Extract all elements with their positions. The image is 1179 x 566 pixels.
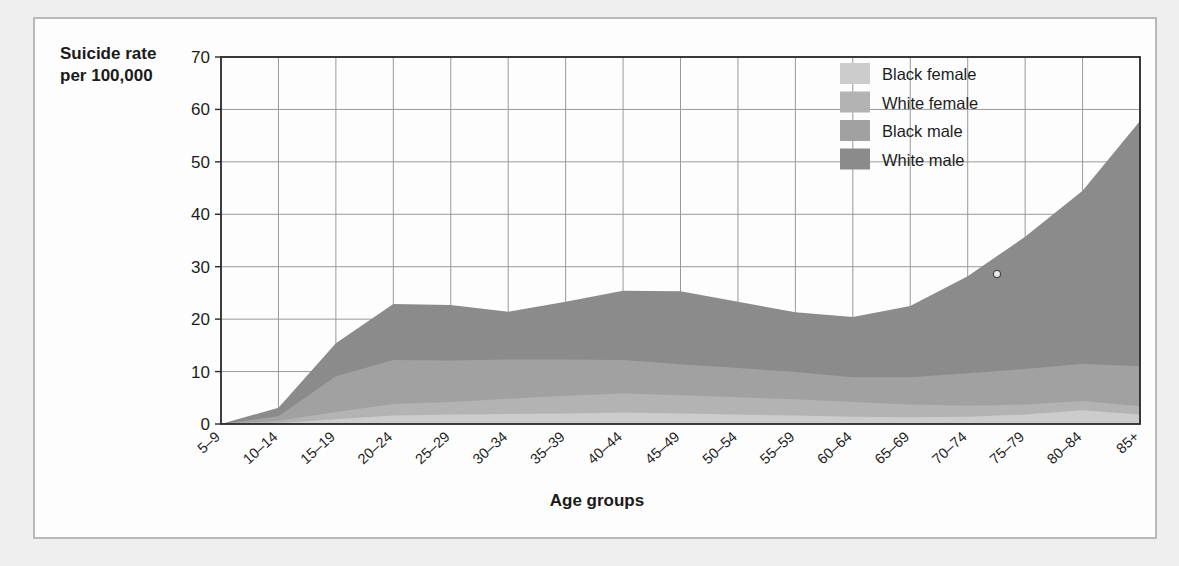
y-tick-label: 50 [191, 153, 210, 172]
x-tick-label: 45–49 [642, 428, 683, 467]
x-tick-label: 40–44 [584, 428, 625, 467]
legend-swatch-1 [840, 92, 870, 113]
ink-speck [993, 270, 1000, 277]
x-tick-label: 15–19 [297, 428, 338, 467]
x-axis-ticks: 5–910–1415–1920–2425–2930–3435–3940–4445… [194, 428, 1142, 467]
y-tick-label: 60 [191, 100, 210, 119]
y-tick-label: 70 [191, 48, 210, 67]
legend-swatch-2 [840, 120, 870, 141]
x-tick-label: 25–29 [412, 428, 453, 467]
x-tick-label: 35–39 [527, 428, 568, 467]
legend-label-1: White female [882, 94, 978, 112]
legend-label-0: Black female [882, 65, 976, 83]
x-tick-label: 5–9 [194, 428, 223, 456]
y-tick-label: 20 [191, 310, 210, 329]
x-tick-label: 30–34 [470, 428, 511, 467]
stacked-area-chart: 010203040506070 5–910–1415–1920–2425–293… [35, 19, 1159, 541]
y-tick-label: 10 [191, 363, 210, 382]
legend-swatch-0 [840, 63, 870, 84]
y-tick-label: 40 [191, 205, 210, 224]
chart-legend: Black femaleWhite femaleBlack maleWhite … [840, 63, 978, 170]
x-tick-label: 85+ [1113, 428, 1142, 456]
legend-label-2: Black male [882, 122, 963, 140]
x-tick-label: 20–24 [355, 428, 396, 467]
x-tick-label: 50–54 [699, 428, 740, 467]
legend-swatch-3 [840, 149, 870, 170]
x-tick-label: 55–59 [757, 428, 798, 467]
x-tick-label: 10–14 [240, 428, 281, 467]
x-tick-label: 65–69 [872, 428, 913, 467]
x-tick-label: 80–84 [1044, 428, 1085, 467]
x-tick-label: 70–74 [929, 428, 970, 467]
legend-label-3: White male [882, 151, 965, 169]
x-tick-label: 75–79 [986, 428, 1027, 467]
x-axis-title: Age groups [35, 491, 1159, 511]
chart-figure: Suicide rate per 100,000 010203040506070… [33, 17, 1157, 539]
y-axis-ticks: 010203040506070 [191, 48, 221, 434]
y-tick-label: 30 [191, 258, 210, 277]
annotation-layer [993, 270, 1000, 277]
x-tick-label: 60–64 [814, 428, 855, 467]
